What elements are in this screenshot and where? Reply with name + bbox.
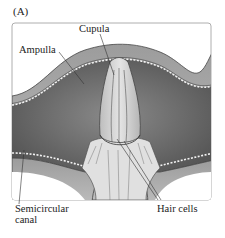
cupula-label: Cupula [79,23,109,34]
semicircular-canal-label: Semicircular canal [15,203,69,225]
semicircular-canal-label-line2: canal [15,214,69,225]
ampulla-label: Ampulla [19,44,56,55]
semicircular-canal-label-line1: Semicircular [15,203,69,214]
hair-cells-label: Hair cells [157,203,198,214]
